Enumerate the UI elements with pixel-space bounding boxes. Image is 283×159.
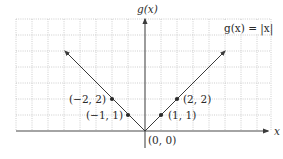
point-neg2-2 (110, 97, 114, 101)
point-1-1 (159, 113, 163, 117)
origin-label: (0, 0) (148, 134, 176, 146)
point-2-2 (175, 97, 179, 101)
point-label-neg2-2: (−2, 2) (69, 93, 106, 105)
grid (16, 19, 271, 131)
point-neg1-1 (126, 113, 130, 117)
absolute-value-chart: g(x) x g(x) = |x| (−2, 2) (−1, 1) (1, 1)… (0, 0, 283, 159)
point-label-neg1-1: (−1, 1) (86, 109, 123, 121)
x-axis-label: x (274, 125, 280, 137)
equation-label: g(x) = |x| (224, 22, 273, 36)
point-label-2-2: (2, 2) (183, 93, 211, 105)
point-label-1-1: (1, 1) (168, 109, 196, 121)
y-axis-label: g(x) (137, 3, 158, 15)
